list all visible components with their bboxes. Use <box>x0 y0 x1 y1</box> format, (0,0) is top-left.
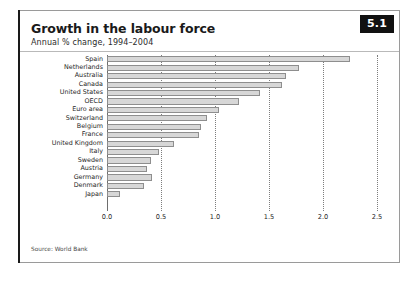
chart-page: 5.1 Growth in the labour force Annual % … <box>0 0 417 282</box>
category-label: Japan <box>85 190 103 198</box>
bar-track <box>107 65 377 71</box>
bar-track <box>107 132 377 138</box>
bar <box>107 65 299 71</box>
category-labels: SpainNetherlandsAustraliaCanadaUnited St… <box>19 55 107 198</box>
bar <box>107 98 239 104</box>
bar-track <box>107 124 377 130</box>
bar <box>107 90 260 96</box>
bar <box>107 132 199 138</box>
category-label: France <box>82 130 103 138</box>
category-label-row: Japan <box>19 190 107 198</box>
bar-row <box>107 148 377 156</box>
bar-track <box>107 90 377 96</box>
bar-row <box>107 114 377 122</box>
bar-row <box>107 63 377 71</box>
bar-row <box>107 106 377 114</box>
bar <box>107 183 144 189</box>
bar <box>107 124 201 130</box>
x-tick-label: 1.0 <box>210 213 221 221</box>
bar-track <box>107 82 377 88</box>
category-label: Austria <box>80 164 103 172</box>
bar <box>107 115 207 121</box>
bar-row <box>107 55 377 63</box>
bar-row <box>107 165 377 173</box>
x-tick-label: 0.0 <box>102 213 113 221</box>
bar-row <box>107 182 377 190</box>
chart-title: Growth in the labour force <box>31 21 215 36</box>
category-label: Italy <box>89 147 103 155</box>
bar <box>107 141 174 147</box>
bar-track <box>107 141 377 147</box>
bar-track <box>107 73 377 79</box>
bar-row <box>107 139 377 147</box>
bar-row <box>107 156 377 164</box>
category-label: Germany <box>74 173 103 181</box>
bar <box>107 107 219 113</box>
x-tick-label: 1.5 <box>264 213 275 221</box>
category-label: Belgium <box>77 122 103 130</box>
bar-row <box>107 72 377 80</box>
category-label: United Kingdom <box>52 139 103 147</box>
bar-row <box>107 190 377 198</box>
plot-area: SpainNetherlandsAustraliaCanadaUnited St… <box>19 55 399 227</box>
bar-row <box>107 80 377 88</box>
bar <box>107 174 152 180</box>
bar-track <box>107 166 377 172</box>
bar-track <box>107 191 377 197</box>
x-tick-label: 0.5 <box>156 213 167 221</box>
bar-row <box>107 97 377 105</box>
left-spine <box>18 10 20 263</box>
chart-subtitle: Annual % change, 1994–2004 <box>31 38 153 47</box>
bar-track <box>107 56 377 62</box>
bar-row <box>107 89 377 97</box>
bar-track <box>107 183 377 189</box>
source-note: Source: World Bank <box>31 246 88 252</box>
title-divider <box>19 51 399 52</box>
bar <box>107 191 120 197</box>
category-label: Canada <box>79 80 103 88</box>
category-label: Sweden <box>78 156 103 164</box>
bar-track <box>107 157 377 163</box>
category-label: Switzerland <box>66 114 103 122</box>
bar-row <box>107 173 377 181</box>
bar-track <box>107 149 377 155</box>
x-axis-ticks: 0.00.51.01.52.02.5 <box>107 213 377 227</box>
bar-row <box>107 131 377 139</box>
category-label: OECD <box>85 97 103 105</box>
category-label: Netherlands <box>64 63 103 71</box>
bar-track <box>107 107 377 113</box>
bar <box>107 82 282 88</box>
bar <box>107 157 151 163</box>
bar <box>107 73 286 79</box>
bar <box>107 56 350 62</box>
category-label: Euro area <box>72 105 103 113</box>
x-tick-label: 2.0 <box>318 213 329 221</box>
bar-track <box>107 98 377 104</box>
chart-number-badge: 5.1 <box>360 15 394 33</box>
category-label: Denmark <box>74 181 103 189</box>
category-label: Spain <box>85 55 103 63</box>
bar-track <box>107 115 377 121</box>
x-tick-label: 2.5 <box>372 213 383 221</box>
bars-container <box>107 55 377 205</box>
bar-track <box>107 174 377 180</box>
bar-row <box>107 123 377 131</box>
bar <box>107 166 147 172</box>
category-label: United States <box>60 88 103 96</box>
category-label: Australia <box>75 71 103 79</box>
chart-frame: 5.1 Growth in the labour force Annual % … <box>18 10 400 263</box>
bar <box>107 149 159 155</box>
gridline <box>377 55 379 211</box>
